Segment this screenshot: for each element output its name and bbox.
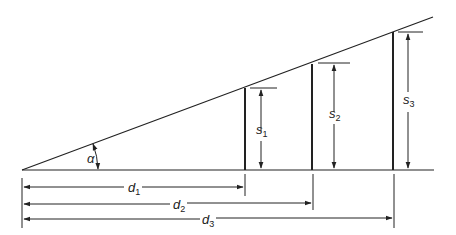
slope-line [22,17,433,170]
distance-label-2: d2 [173,197,185,214]
height-label-3: s3 [403,92,415,109]
distance-label-3: d3 [202,212,214,229]
triangle-diagram: α s1 s2 s3 d1 d2 d3 [0,0,456,235]
height-label-2: s2 [329,106,341,123]
angle-label: α [87,151,95,166]
distance-label-1: d1 [128,180,140,197]
height-label-1: s1 [256,122,268,139]
